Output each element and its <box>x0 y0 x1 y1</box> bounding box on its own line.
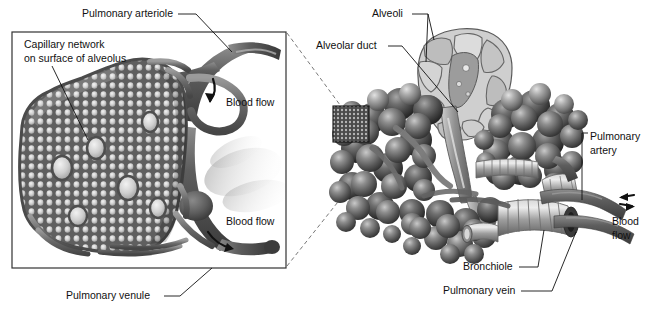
label-alveolar-duct-text: Alveolar duct <box>316 39 377 51</box>
label-blood-flow-in: Blood flow <box>226 96 275 108</box>
pulmonary-anatomy-figure: Pulmonary arteriole Capillary network on… <box>0 0 647 315</box>
left-panel-illustration <box>12 32 292 268</box>
label-blood-flow-right-line1: Blood <box>612 215 639 227</box>
label-pulmonary-venule-text: Pulmonary venule <box>66 289 150 301</box>
label-pulmonary-arteriole-text: Pulmonary arteriole <box>82 7 173 19</box>
label-bronchiole-text: Bronchiole <box>463 260 513 272</box>
label-capillary-network-line2: on surface of alveolus <box>24 52 126 64</box>
label-pulmonary-vein-text: Pulmonary vein <box>443 284 516 296</box>
label-capillary-network-line1: Capillary network <box>24 38 105 50</box>
label-blood-flow-out: Blood flow <box>226 215 275 227</box>
label-alveoli-text: Alveoli <box>372 7 403 19</box>
label-blood-flow-right-line2: flow <box>612 229 631 241</box>
label-pulmonary-artery-line1: Pulmonary <box>590 130 641 142</box>
label-pulmonary-artery-line2: artery <box>590 144 618 156</box>
magnified-region-box <box>333 106 369 142</box>
